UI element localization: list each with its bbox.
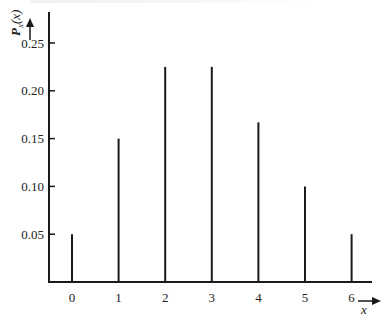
x-tick-label: 0: [69, 290, 76, 305]
y-arrow-head-icon: [26, 18, 34, 27]
y-tick-label: 0.15: [21, 131, 44, 146]
y-axis-title-text: Px(x): [8, 10, 25, 36]
axis-labels: Px(x)x: [8, 10, 381, 317]
y-axis: 0.050.100.150.200.25: [21, 12, 55, 283]
x-arrow-head-icon: [372, 297, 381, 305]
y-tick-label: 0.05: [21, 227, 44, 242]
probability-mass-chart: 0.050.100.150.200.25 0123456 Px(x)x: [0, 0, 390, 325]
x-tick-label: 2: [162, 290, 169, 305]
y-axis-title: Px(x): [8, 10, 25, 36]
x-tick-label: 1: [115, 290, 122, 305]
x-tick-label: 3: [209, 290, 216, 305]
x-axis-title: x: [360, 302, 367, 317]
x-tick-label: 5: [302, 290, 309, 305]
x-axis: 0123456: [48, 282, 372, 305]
x-tick-label: 6: [348, 290, 355, 305]
y-tick-label: 0.25: [21, 36, 44, 51]
x-tick-label: 4: [255, 290, 262, 305]
y-tick-label: 0.10: [21, 179, 44, 194]
y-tick-label: 0.20: [21, 83, 44, 98]
stems: [72, 67, 352, 282]
